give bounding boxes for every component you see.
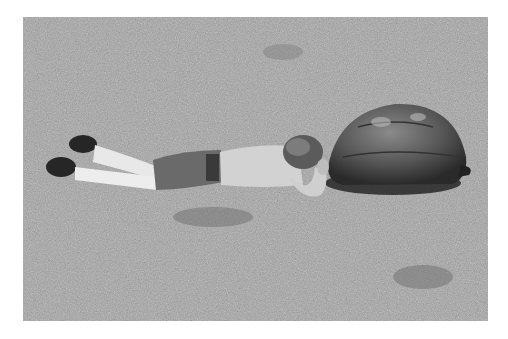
- photograph: [23, 17, 488, 321]
- photo-scene: [23, 17, 488, 321]
